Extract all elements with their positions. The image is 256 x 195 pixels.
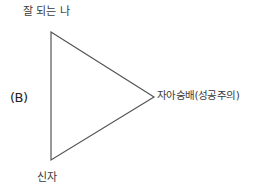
right-vertex-label: 자아숭배(성공주의) xyxy=(157,90,239,101)
top-vertex-label: 잘 되는 나 xyxy=(23,6,70,17)
side-marker-label: (B) xyxy=(10,91,28,104)
bottom-vertex-label: 신자 xyxy=(37,172,57,183)
triangle-outline xyxy=(51,32,154,160)
triangle-diagram: 잘 되는 나 (B) 자아숭배(성공주의) 신자 xyxy=(0,0,256,195)
